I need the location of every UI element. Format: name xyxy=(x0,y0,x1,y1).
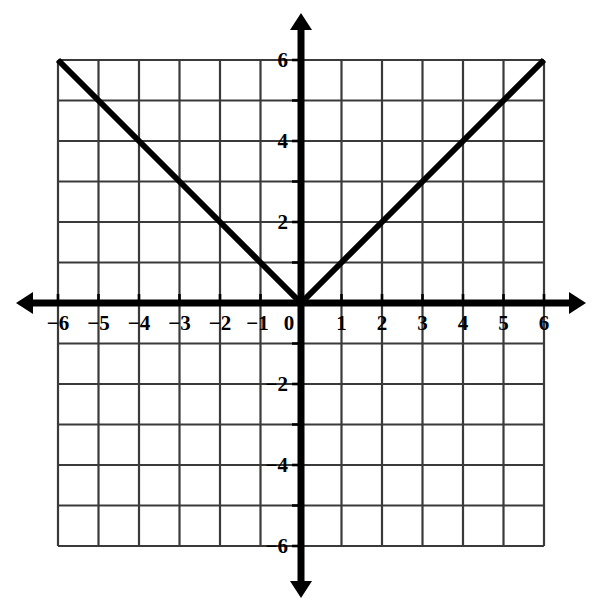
x-tick-label-0: 0 xyxy=(284,313,295,334)
x-tick-label-5: 5 xyxy=(498,313,509,334)
y-tick-label-4: 4 xyxy=(278,131,289,152)
graph-canvas xyxy=(0,0,602,612)
x-tick-label-neg6: −6 xyxy=(47,313,69,334)
x-tick-label-neg2: −2 xyxy=(209,313,231,334)
y-axis-down-arrowhead xyxy=(290,581,312,598)
x-tick-label-neg5: −5 xyxy=(87,313,109,334)
y-tick-label-neg4: −4 xyxy=(266,455,288,476)
y-tick-label-6: 6 xyxy=(278,50,289,71)
x-tick-label-neg1: −1 xyxy=(246,313,268,334)
x-tick-label-4: 4 xyxy=(458,313,469,334)
x-tick-label-1: 1 xyxy=(336,313,347,334)
x-axis-left-arrowhead xyxy=(16,292,33,314)
y-tick-label-neg2: −2 xyxy=(266,374,288,395)
x-tick-label-2: 2 xyxy=(377,313,388,334)
x-axis-right-arrowhead xyxy=(569,292,586,314)
y-axis-up-arrowhead xyxy=(290,13,312,30)
y-tick-label-2: 2 xyxy=(278,212,289,233)
x-tick-label-3: 3 xyxy=(417,313,428,334)
x-tick-label-6: 6 xyxy=(539,313,550,334)
x-tick-label-neg4: −4 xyxy=(128,313,150,334)
x-tick-label-neg3: −3 xyxy=(168,313,190,334)
coordinate-graph: −6−5−4−3−2−10123456 642−2−4−6 xyxy=(0,0,602,612)
y-tick-label-neg6: −6 xyxy=(266,536,288,557)
